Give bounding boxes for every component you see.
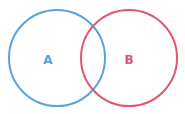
set-a-label: A bbox=[43, 53, 53, 67]
set-a-circle bbox=[9, 10, 105, 106]
venn-diagram: A B bbox=[0, 0, 185, 114]
set-b-label: B bbox=[124, 53, 133, 67]
